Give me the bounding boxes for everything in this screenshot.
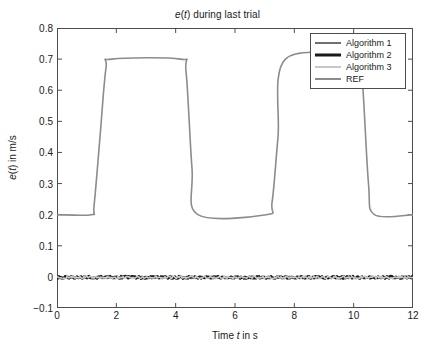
legend-item[interactable]: Algorithm 3 bbox=[315, 61, 401, 73]
x-tick-label: 10 bbox=[348, 310, 359, 321]
legend-item[interactable]: REF bbox=[315, 73, 401, 85]
chart-figure: e(t) during last trial e(t) in m/s 0.80.… bbox=[0, 0, 435, 357]
legend-box: Algorithm 1Algorithm 2Algorithm 3REF bbox=[310, 33, 406, 89]
y-tick-label: 0.4 bbox=[7, 147, 53, 158]
y-tick-label: −0.1 bbox=[7, 303, 53, 314]
y-tick-label: 0.6 bbox=[7, 85, 53, 96]
x-tick-label: 8 bbox=[292, 310, 298, 321]
y-tick-label: 0.5 bbox=[7, 116, 53, 127]
legend-line-swatch bbox=[315, 62, 341, 72]
y-tick-label: 0.2 bbox=[7, 209, 53, 220]
x-tick-label-group: 024681012 bbox=[57, 310, 413, 326]
legend-item-label: REF bbox=[346, 74, 364, 85]
y-tick-label: 0.8 bbox=[7, 23, 53, 34]
legend-swatch-line bbox=[315, 42, 341, 44]
y-tick-label: 0.1 bbox=[7, 240, 53, 251]
y-tick-label: 0.3 bbox=[7, 178, 53, 189]
x-tick-label: 4 bbox=[173, 310, 179, 321]
legend-swatch-line bbox=[315, 54, 341, 57]
legend-line-swatch bbox=[315, 38, 341, 48]
legend-item-label: Algorithm 3 bbox=[346, 62, 392, 73]
chart-title: e(t) during last trial bbox=[0, 9, 435, 20]
legend-swatch-line bbox=[315, 66, 341, 68]
y-tick-label-group: 0.80.70.60.50.40.30.20.10−0.1 bbox=[5, 28, 53, 308]
x-tick-label: 0 bbox=[54, 310, 60, 321]
legend-swatch-line bbox=[315, 78, 341, 80]
legend-item-label: Algorithm 2 bbox=[346, 50, 392, 61]
x-axis-label: Time t in s bbox=[57, 330, 413, 341]
legend-line-swatch bbox=[315, 74, 341, 84]
x-tick-label: 12 bbox=[407, 310, 418, 321]
legend-line-swatch bbox=[315, 50, 341, 60]
y-tick-label: 0.7 bbox=[7, 54, 53, 65]
legend-item[interactable]: Algorithm 1 bbox=[315, 37, 401, 49]
legend-item-label: Algorithm 1 bbox=[346, 38, 392, 49]
x-tick-label: 2 bbox=[114, 310, 120, 321]
x-tick-label: 6 bbox=[232, 310, 238, 321]
y-tick-label: 0 bbox=[7, 271, 53, 282]
legend-item[interactable]: Algorithm 2 bbox=[315, 49, 401, 61]
